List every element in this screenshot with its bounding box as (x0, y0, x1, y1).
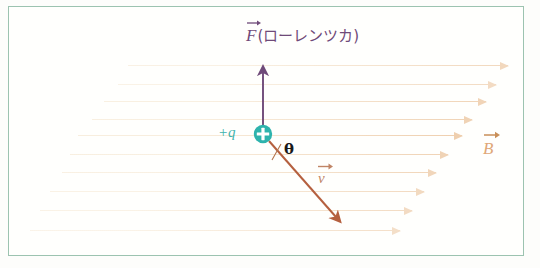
force-label: F (ローレンツカ) (246, 27, 359, 44)
field-label: B (483, 140, 493, 157)
charge-label: +q (218, 125, 236, 140)
velocity-label: v (318, 171, 325, 186)
force-symbol-text: F (246, 26, 256, 45)
velocity-vector-arrow (269, 141, 336, 217)
velocity-symbol-text: v (318, 170, 325, 186)
field-symbol-text: B (483, 139, 493, 158)
diagram-canvas: F (ローレンツカ) +q θ v B (0, 0, 540, 268)
field-symbol: B (483, 140, 493, 157)
angle-label: θ (284, 142, 294, 157)
charge-plus-vertical (261, 128, 264, 140)
force-caption: (ローレンツカ) (257, 27, 359, 45)
force-vector-accent (247, 19, 261, 26)
force-symbol: F (246, 27, 257, 44)
velocity-vector-accent (318, 162, 333, 170)
field-vector-accent (484, 130, 500, 139)
velocity-symbol: v (318, 171, 325, 186)
